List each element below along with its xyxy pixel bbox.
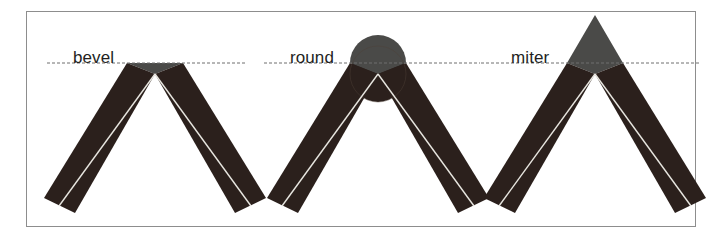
- bevel-diagram: [35, 12, 275, 228]
- miter-cap-shape: [567, 15, 623, 63]
- bevel-left-arm: [44, 63, 155, 213]
- line-join-figure: bevel round: [0, 0, 718, 244]
- figure-frame: bevel round: [26, 11, 696, 227]
- bevel-right-arm: [155, 63, 266, 213]
- round-left-arm: [267, 63, 378, 213]
- miter-diagram: [475, 12, 715, 228]
- round-cap-shape: [350, 35, 406, 63]
- round-diagram: [258, 12, 498, 228]
- round-left-centerline: [282, 74, 378, 206]
- joint-label-miter: miter: [511, 48, 549, 68]
- miter-left-arm: [484, 63, 595, 213]
- miter-left-centerline: [499, 74, 595, 206]
- bevel-left-centerline: [59, 74, 155, 206]
- joint-panel-round: round: [258, 12, 498, 228]
- joint-label-bevel: bevel: [73, 48, 114, 68]
- joint-panel-bevel: bevel: [35, 12, 275, 228]
- joint-label-round: round: [290, 48, 334, 68]
- round-right-centerline: [378, 74, 474, 206]
- round-right-arm: [378, 63, 489, 213]
- joint-panel-miter: miter: [475, 12, 715, 228]
- miter-right-centerline: [595, 74, 691, 206]
- miter-right-arm: [595, 63, 706, 213]
- bevel-right-centerline: [155, 74, 251, 206]
